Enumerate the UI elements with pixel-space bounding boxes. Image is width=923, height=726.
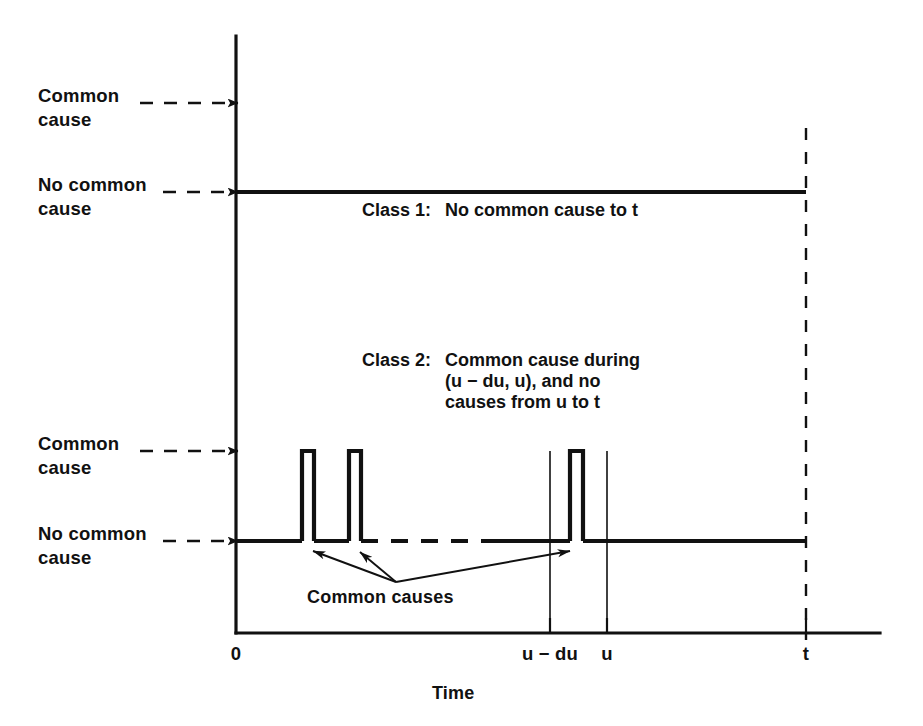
class1-leader-arrows: [140, 103, 238, 192]
pointer-to-pulse-1: [313, 551, 396, 582]
pointer-to-pulse-2: [360, 552, 396, 582]
axis-group: [236, 36, 880, 633]
x-tick-label-u-minus-du: u − du: [507, 642, 593, 666]
class2-pulse-1: [302, 451, 314, 541]
x-axis-title: Time: [432, 682, 475, 705]
class1-caption: Class 1: No common cause to t: [362, 200, 638, 221]
annotation-common-causes: Common causes: [307, 586, 454, 609]
pointer-to-pulse-3: [396, 551, 570, 582]
class2-pulse-3: [570, 451, 583, 541]
y-label-class2-high: Common cause: [38, 432, 119, 480]
class2-leader-arrows: [140, 451, 238, 541]
x-tick-label-t: t: [791, 642, 821, 666]
class2-pulse-2: [349, 451, 361, 541]
common-causes-pointers: [313, 551, 570, 582]
x-tick-label-u: u: [592, 642, 622, 666]
x-tick-label-0: 0: [216, 642, 256, 666]
figure-timeline-diagram: Common cause No common cause Common caus…: [0, 0, 923, 726]
class2-caption: Class 2: Common cause during (u − du, u)…: [362, 350, 640, 413]
y-label-class1-high: Common cause: [38, 84, 119, 132]
class2-trace: [236, 451, 806, 541]
class2-tag: Class 2:: [362, 350, 431, 371]
class2-text: Common cause during (u − du, u), and no …: [445, 350, 640, 413]
y-label-class2-low: No common cause: [38, 522, 147, 570]
class1-text: No common cause to t: [445, 200, 638, 221]
y-label-class1-low: No common cause: [38, 173, 147, 221]
class1-tag: Class 1:: [362, 200, 431, 221]
